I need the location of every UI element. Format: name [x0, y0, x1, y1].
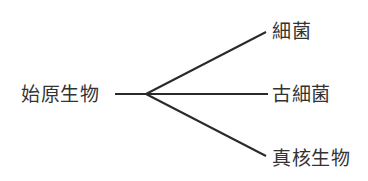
branch-label-bacteria: 細菌	[272, 20, 311, 42]
branch-line-bacteria	[146, 32, 266, 94]
branch-label-archaea: 古細菌	[272, 83, 331, 105]
root-label: 始原生物	[21, 83, 99, 105]
branch-line-eukaryota	[146, 94, 266, 156]
branch-label-eukaryota: 真核生物	[272, 147, 350, 169]
